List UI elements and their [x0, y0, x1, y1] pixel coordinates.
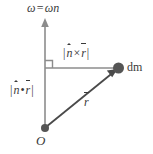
- mass-element-point: [113, 63, 124, 74]
- right-angle-marker: [45, 61, 53, 69]
- position-vector-label: r: [84, 96, 89, 108]
- abs-bar-close-cross: |: [86, 46, 90, 60]
- diagram-canvas: [0, 0, 153, 154]
- position-vector-line: [46, 73, 113, 127]
- origin-point: [41, 124, 49, 132]
- origin-label: O: [36, 134, 45, 147]
- mass-element-label: dm: [127, 61, 142, 73]
- abs-bar-close-dot: |: [30, 83, 34, 97]
- rotation-axis-diagram: ω=ωn |n×r| |n•r| dm r O: [0, 0, 153, 154]
- r-vector-symbol-dot: r: [26, 83, 31, 97]
- n-hat-symbol-dot: n: [13, 83, 19, 97]
- r-vector-symbol: r: [84, 95, 89, 109]
- cross-product-operator: ×: [72, 46, 81, 60]
- dot-product-magnitude-label: |n•r|: [9, 84, 35, 96]
- n-hat-symbol-axis: n: [53, 1, 59, 15]
- omega-vector-symbol: ω: [27, 1, 36, 15]
- cross-product-magnitude-label: |n×r|: [62, 47, 90, 59]
- rotation-axis-arrowhead: [41, 18, 49, 27]
- equals-symbol: =: [36, 1, 45, 15]
- r-vector-symbol-cross: r: [81, 46, 86, 60]
- angular-velocity-label: ω=ωn: [27, 2, 60, 14]
- omega-scalar-symbol: ω: [45, 1, 54, 15]
- n-hat-symbol-cross: n: [66, 46, 72, 60]
